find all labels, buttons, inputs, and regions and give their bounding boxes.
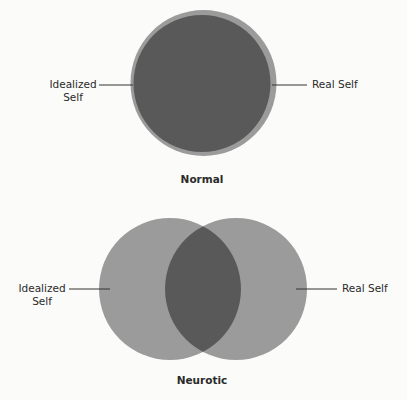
label-line-2: Self bbox=[17, 295, 67, 308]
idealized-self-label-normal: Idealized Self bbox=[48, 78, 98, 104]
real-self-label-normal: Real Self bbox=[312, 78, 358, 91]
label-line-1: Idealized bbox=[17, 282, 67, 295]
idealized-self-label-neurotic: Idealized Self bbox=[17, 282, 67, 308]
label-line-1: Idealized bbox=[48, 78, 98, 91]
label-line-2: Self bbox=[48, 91, 98, 104]
idealized-self-circle-normal bbox=[134, 15, 271, 152]
diagram-canvas bbox=[0, 0, 407, 400]
neurotic-diagram bbox=[69, 218, 337, 360]
real-self-label-neurotic: Real Self bbox=[342, 282, 388, 295]
caption-neurotic: Neurotic bbox=[172, 374, 232, 386]
normal-diagram bbox=[99, 10, 307, 156]
caption-normal: Normal bbox=[172, 173, 232, 185]
